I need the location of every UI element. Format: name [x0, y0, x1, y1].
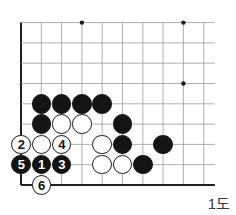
star-point	[181, 81, 185, 85]
stone-black	[113, 114, 133, 134]
stone-white	[32, 135, 52, 155]
move-number: 6	[38, 178, 45, 191]
stone-black	[153, 135, 173, 155]
stone-black	[92, 94, 112, 114]
move-number: 1	[38, 158, 45, 171]
stone-black	[52, 94, 72, 114]
figure-label: 1도	[208, 192, 230, 213]
stone-white	[92, 135, 112, 155]
move-number: 2	[18, 137, 25, 150]
move-stone-5: 5	[11, 155, 31, 175]
move-stone-2: 2	[11, 135, 31, 155]
stone-black	[32, 94, 52, 114]
stone-white	[72, 114, 92, 134]
go-diagram: 245136 1도	[0, 0, 236, 215]
stone-white	[52, 114, 72, 134]
stone-black	[133, 155, 153, 175]
star-point	[80, 20, 84, 24]
stone-black	[72, 94, 92, 114]
move-stone-6: 6	[32, 175, 52, 195]
star-point	[181, 20, 185, 24]
move-number: 3	[58, 158, 65, 171]
move-number: 4	[58, 137, 65, 150]
move-number: 5	[18, 158, 25, 171]
stone-black	[32, 114, 52, 134]
